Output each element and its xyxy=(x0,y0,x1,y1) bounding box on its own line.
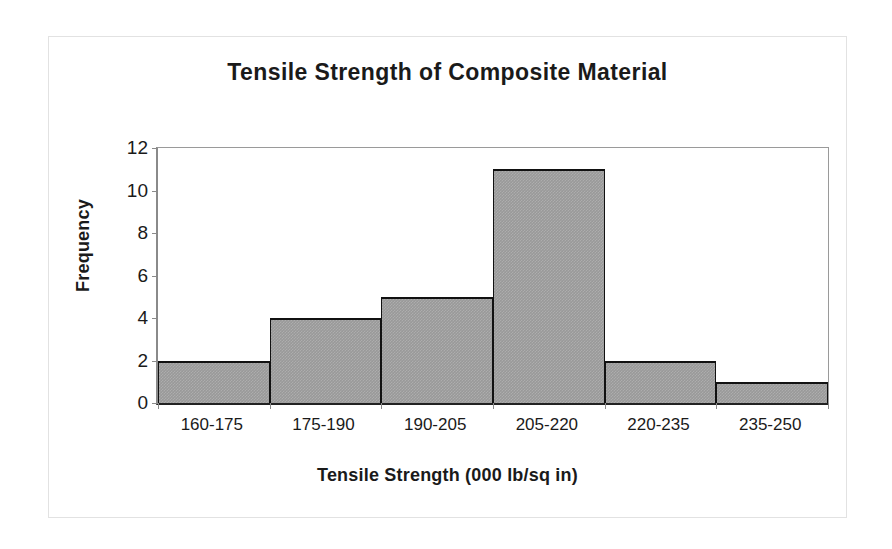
x-tick-mark xyxy=(605,403,606,409)
y-tick-mark xyxy=(152,318,158,319)
x-tick-mark xyxy=(493,403,494,409)
x-tick-mark xyxy=(828,403,829,409)
x-axis-title: Tensile Strength (000 lb/sq in) xyxy=(49,465,846,486)
bar-205-220 xyxy=(493,169,605,403)
x-tick-label: 160-175 xyxy=(156,415,268,435)
chart-page: Tensile Strength of Composite Material F… xyxy=(0,0,892,549)
y-tick-mark xyxy=(152,276,158,277)
chart-title: Tensile Strength of Composite Material xyxy=(49,59,846,86)
plot-area: 024681012 xyxy=(156,147,829,405)
x-tick-label: 190-205 xyxy=(379,415,491,435)
chart-frame: Tensile Strength of Composite Material F… xyxy=(48,36,847,518)
x-tick-label: 235-250 xyxy=(714,415,826,435)
x-tick-mark xyxy=(716,403,717,409)
y-tick-mark xyxy=(152,191,158,192)
bar-series xyxy=(158,148,828,403)
bar-235-250 xyxy=(716,382,828,403)
bar-220-235 xyxy=(605,361,717,404)
y-tick-mark xyxy=(152,361,158,362)
y-tick-label: 0 xyxy=(137,392,148,414)
bar-190-205 xyxy=(381,297,493,403)
y-tick-label: 10 xyxy=(127,180,148,202)
y-tick-label: 12 xyxy=(127,137,148,159)
y-tick-label: 2 xyxy=(137,350,148,372)
x-tick-mark xyxy=(158,403,159,409)
x-tick-mark xyxy=(381,403,382,409)
y-tick-label: 8 xyxy=(137,222,148,244)
y-tick-label: 6 xyxy=(137,265,148,287)
x-tick-label: 220-235 xyxy=(603,415,715,435)
x-tick-mark xyxy=(270,403,271,409)
x-tick-label: 205-220 xyxy=(491,415,603,435)
bar-160-175 xyxy=(158,361,270,404)
y-axis-title: Frequency xyxy=(73,186,94,306)
bar-175-190 xyxy=(270,318,382,403)
y-tick-label: 4 xyxy=(137,307,148,329)
y-tick-mark xyxy=(152,148,158,149)
y-tick-mark xyxy=(152,233,158,234)
x-axis-tick-labels: 160-175175-190190-205205-220220-235235-2… xyxy=(156,415,826,435)
x-tick-label: 175-190 xyxy=(268,415,380,435)
